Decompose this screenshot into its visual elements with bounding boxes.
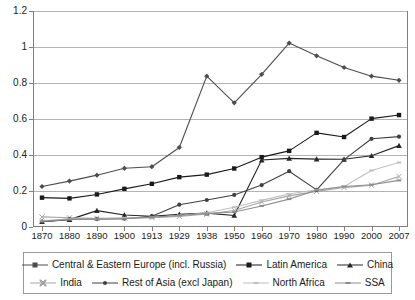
- x-tick-label: 1870: [31, 231, 52, 241]
- data-point-diamond-marker: [369, 74, 374, 79]
- legend-item[interactable]: SSA: [330, 278, 390, 288]
- data-point-square-marker: [95, 192, 99, 196]
- x-tick-label: 1913: [141, 231, 162, 241]
- data-point-dash-marker: [259, 199, 263, 201]
- data-point-x-marker: [396, 174, 401, 179]
- series-ssa: [40, 179, 401, 222]
- legend-label: India: [60, 278, 82, 288]
- data-point-diamond-marker: [94, 173, 99, 178]
- data-point-dash-marker: [287, 193, 291, 195]
- x-tick-label: 2000: [361, 231, 382, 241]
- x-tick-label: 1980: [306, 231, 327, 241]
- data-point-square-marker: [205, 172, 209, 176]
- data-point-diamond-marker: [341, 65, 346, 70]
- data-point-square-marker: [397, 113, 401, 117]
- data-point-square-marker: [40, 195, 44, 199]
- data-point-dash-marker: [122, 218, 126, 220]
- legend-item[interactable]: North Africa: [238, 278, 330, 288]
- x-tick-label: 1929: [169, 231, 190, 241]
- data-point-square-marker: [287, 149, 291, 153]
- legend-row: Central & Eastern Europe (incl. Russia)L…: [28, 256, 387, 274]
- data-point-dot-marker: [369, 137, 373, 141]
- data-point-diamond-marker: [314, 53, 319, 58]
- x-tick-label: 1890: [86, 231, 107, 241]
- data-point-dash-marker: [287, 198, 291, 200]
- data-point-square-marker: [342, 135, 346, 139]
- x-tick-label: 1938: [196, 231, 217, 241]
- data-point-dash-marker: [205, 213, 209, 215]
- y-tick-label: 0: [21, 222, 27, 232]
- data-point-dash-marker: [40, 220, 44, 222]
- data-point-dash-marker: [232, 206, 236, 208]
- legend-item[interactable]: Rest of Asia (excl Japan): [87, 278, 238, 288]
- legend-row: IndiaRest of Asia (excl Japan)North Afri…: [28, 274, 387, 292]
- data-point-dot-marker: [287, 169, 291, 173]
- data-point-dot-marker: [177, 203, 181, 207]
- legend-marker-dash-icon: [335, 278, 361, 288]
- legend-label: SSA: [365, 278, 385, 288]
- data-point-dash-marker: [177, 214, 181, 216]
- x-tick-label: 1880: [59, 231, 80, 241]
- data-point-square-marker: [122, 187, 126, 191]
- data-point-diamond-marker: [122, 166, 127, 171]
- y-tick-label: 1.2: [13, 6, 27, 16]
- x-tick-label: 1950: [224, 231, 245, 241]
- data-point-dash-marker: [342, 186, 346, 188]
- legend: Central & Eastern Europe (incl. Russia)L…: [23, 252, 392, 294]
- series-central-eastern-europe-incl-russia: [39, 40, 401, 189]
- data-point-dash-marker: [397, 179, 401, 181]
- data-point-diamond-marker: [67, 179, 72, 184]
- legend-item[interactable]: India: [25, 278, 87, 288]
- data-point-diamond-marker: [39, 184, 44, 189]
- data-point-square-marker: [314, 131, 318, 135]
- data-point-dot-marker: [260, 183, 264, 187]
- legend-label: Rest of Asia (excl Japan): [122, 278, 233, 288]
- data-point-diamond-marker: [396, 78, 401, 83]
- data-point-dot-marker: [205, 198, 209, 202]
- x-tick-label: 2007: [388, 231, 409, 241]
- y-tick-label: 1: [21, 42, 27, 52]
- data-point-square-marker: [67, 196, 71, 200]
- data-point-dash-marker: [314, 189, 318, 191]
- y-tick-label: 0.8: [13, 78, 27, 88]
- data-point-dash-marker: [232, 211, 236, 213]
- y-tick-label: 0.2: [13, 186, 27, 196]
- data-point-dot-marker: [397, 135, 401, 139]
- legend-label: Latin America: [266, 260, 327, 270]
- data-point-square-marker: [177, 175, 181, 179]
- data-point-dash-marker: [67, 218, 71, 220]
- x-tick-label: 1990: [333, 231, 354, 241]
- plot-frame: 00.20.40.60.811.2: [33, 11, 408, 227]
- y-tick-mark: [29, 227, 33, 228]
- data-point-dash-marker: [95, 218, 99, 220]
- legend-marker-dash-icon: [243, 278, 269, 288]
- legend-marker-square-icon: [236, 260, 262, 270]
- legend-item[interactable]: Central & Eastern Europe (incl. Russia): [17, 260, 232, 270]
- series-layer: [33, 11, 408, 227]
- legend-marker-dot-icon: [92, 278, 118, 288]
- series-line: [42, 137, 399, 222]
- y-tick-label: 0.4: [13, 150, 27, 160]
- series-line: [42, 43, 399, 186]
- data-point-dot-marker: [232, 193, 236, 197]
- legend-label: China: [367, 260, 393, 270]
- legend-marker-x-icon: [30, 278, 56, 288]
- legend-item[interactable]: China: [332, 260, 398, 270]
- line-chart: 00.20.40.60.811.2 1870188018901900191319…: [0, 0, 415, 300]
- legend-marker-diamond-icon: [22, 260, 48, 270]
- data-point-triangle-marker: [396, 143, 402, 148]
- x-tick-label: 1970: [279, 231, 300, 241]
- data-point-dash-marker: [397, 162, 401, 164]
- data-point-dash-marker: [369, 184, 373, 186]
- legend-item[interactable]: Latin America: [231, 260, 332, 270]
- data-point-dot-marker: [342, 158, 346, 162]
- data-point-dash-marker: [259, 205, 263, 207]
- legend-label: Central & Eastern Europe (incl. Russia): [52, 260, 227, 270]
- x-tick-label: 1900: [114, 231, 135, 241]
- data-point-square-marker: [150, 182, 154, 186]
- data-point-square-marker: [369, 116, 373, 120]
- x-tick-label: 1960: [251, 231, 272, 241]
- legend-label: North Africa: [273, 278, 325, 288]
- data-point-square-marker: [232, 166, 236, 170]
- data-point-dash-marker: [369, 169, 373, 171]
